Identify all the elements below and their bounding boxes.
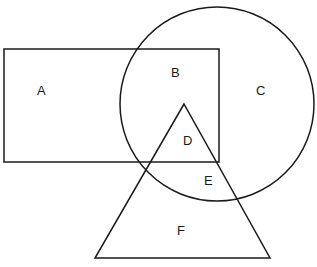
region-label-f: F	[177, 223, 185, 238]
region-label-c: C	[256, 83, 265, 98]
region-label-d: D	[183, 133, 192, 148]
venn-diagram: A B C D E F	[0, 0, 317, 267]
circle-shape	[120, 7, 314, 201]
region-label-b: B	[171, 65, 180, 80]
region-label-a: A	[37, 83, 46, 98]
region-label-e: E	[204, 173, 213, 188]
